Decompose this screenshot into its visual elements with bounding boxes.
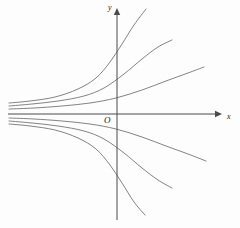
y-axis-arrowhead (114, 8, 120, 15)
axes-group (8, 8, 222, 220)
x-axis-label: x (227, 113, 231, 121)
solution-curve (9, 40, 172, 106)
y-axis-label: y (108, 4, 112, 12)
solution-curve (9, 67, 204, 109)
solution-curve (9, 121, 172, 188)
curve-family-group (9, 9, 206, 215)
solution-curve (9, 124, 145, 215)
x-axis-arrowhead (215, 111, 222, 117)
solution-curve (9, 9, 146, 103)
math-figure-curve-family: y x O (0, 0, 240, 228)
plot-canvas (0, 0, 240, 228)
origin-label: O (104, 116, 111, 125)
